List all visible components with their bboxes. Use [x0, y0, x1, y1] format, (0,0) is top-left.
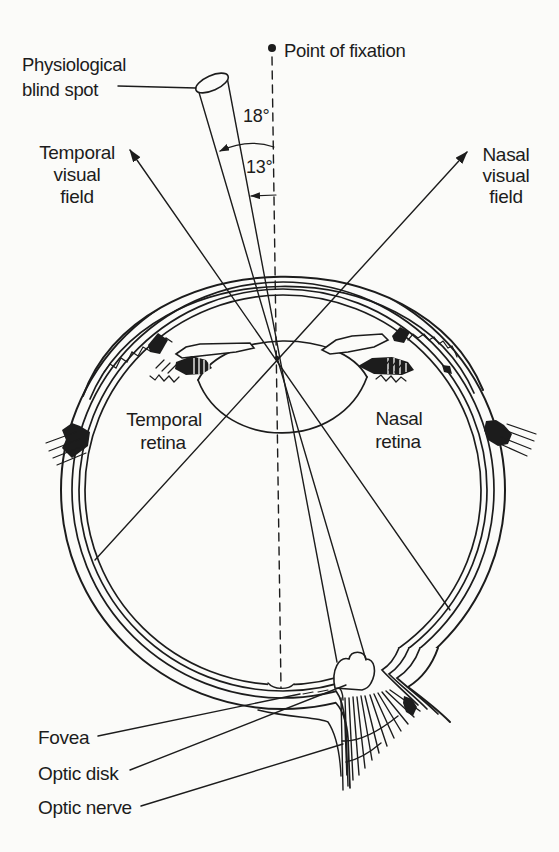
nasal-retina-label-line1: Nasal [375, 408, 422, 429]
fovea-label: Fovea [38, 727, 90, 748]
nasal-field-label-line2: visual [483, 165, 530, 186]
ciliary-hatch-left [156, 360, 176, 373]
nasal-field-label-line1: Nasal [482, 144, 529, 165]
fixation-point-dot [268, 44, 276, 52]
muscle-insertion-right [484, 420, 536, 456]
limbus-notch-right [442, 365, 452, 374]
sclera-inner [72, 282, 494, 698]
iris-blade-right [322, 334, 388, 354]
point-of-fixation-label: Point of fixation [284, 40, 405, 61]
angle-annotations: 18° 13° [220, 106, 276, 196]
ciliary-body-left [104, 333, 254, 382]
blind-spot-label-line2: blind spot [22, 79, 98, 100]
ciliary-spikes-right [376, 375, 406, 382]
ciliary-spikes-left [150, 375, 179, 382]
fixation-dashed-line [272, 57, 281, 688]
iris-blade-left [176, 343, 254, 358]
nasal-field-ray [95, 152, 467, 560]
eye-diagram: 18° 13° Physiological blind spot Point o… [0, 0, 559, 852]
leader-lines [98, 86, 346, 806]
rod-edge-outer [198, 89, 366, 660]
angle-18-arc-arrow [220, 143, 274, 151]
angle-18-label: 18° [243, 106, 269, 126]
temporal-retina-label-line1: Temporal [126, 409, 202, 430]
angle-13-label: 13° [246, 157, 272, 177]
temporal-field-label-line2: visual [54, 164, 101, 185]
lens-posterior [198, 377, 367, 433]
muscle-insertion-left [46, 423, 90, 465]
temporal-field-label-line3: field [60, 186, 93, 207]
angle-13-arrow [251, 195, 276, 196]
choroid-line [79, 289, 487, 691]
nodal-point [275, 356, 279, 360]
eye-globe-wall [61, 271, 505, 709]
optic-disk-label: Optic disk [38, 763, 119, 784]
rod-top-ellipse [193, 69, 231, 97]
visual-field-rays [95, 150, 467, 610]
blind-spot-label-line1: Physiological [22, 54, 126, 75]
temporal-field-label-line1: Temporal [39, 142, 115, 163]
temporal-field-ray [130, 150, 450, 610]
temporal-retina-label-line2: retina [140, 432, 186, 453]
sclera-outer [61, 271, 505, 709]
optic-disk-leader [130, 685, 346, 770]
optic-nerve-label: Optic nerve [38, 797, 132, 818]
diagram-page: 18° 13° Physiological blind spot Point o… [0, 0, 559, 852]
blind-spot-leader [118, 86, 196, 88]
nasal-field-label-line3: field [489, 186, 522, 207]
nasal-retina-label-line2: retina [375, 431, 421, 452]
